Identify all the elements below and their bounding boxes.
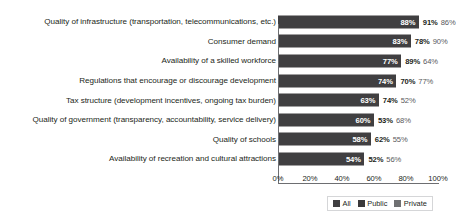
value-public: 78% [415,37,430,46]
chart-row: Regulations that encourage or discourage… [0,71,455,91]
axis-tick: 80% [398,174,413,183]
outside-values: 89%64% [405,56,438,65]
value-private: 52% [401,96,416,105]
legend-swatch-icon [333,200,340,207]
legend-label: Public [367,199,387,208]
outside-values: 74%52% [383,96,416,105]
chart-row: Availability of recreation and cultural … [0,149,455,169]
bar-area: 60%53%68% [278,110,455,130]
category-label: Availability of recreation and cultural … [0,154,278,163]
outside-values: 52%56% [368,154,401,163]
chart-row: Consumer demand83%78%90% [0,32,455,52]
value-public: 89% [405,56,420,65]
bar-value-all: 58% [352,135,370,144]
value-public: 62% [375,135,390,144]
value-private: 55% [393,135,408,144]
bar-value-all: 63% [360,96,378,105]
category-label: Quality of government (transparency, acc… [0,115,278,124]
outside-values: 70%77% [400,76,433,85]
bar-area: 63%74%52% [278,90,455,110]
value-private: 64% [423,56,438,65]
value-public: 53% [378,115,393,124]
chart-legend: AllPublicPrivate [327,196,433,211]
bar-value-all: 60% [356,115,374,124]
axis-tick: 60% [366,174,381,183]
bar-all: 60% [278,113,374,126]
category-label: Quality of infrastructure (transportatio… [0,17,278,26]
category-label: Consumer demand [0,37,278,46]
bar-value-all: 88% [400,17,418,26]
category-label: Regulations that encourage or discourage… [0,76,278,85]
chart-row: Quality of schools58%62%55% [0,130,455,150]
bar-all: 77% [278,54,401,67]
axis-tick: 100% [428,174,447,183]
chart-title-clipped [0,0,455,5]
bar-area: 88%91%86% [278,12,455,32]
legend-label: Private [404,199,427,208]
legend-label: All [343,199,351,208]
value-public: 52% [368,154,383,163]
bar-all: 74% [278,74,396,87]
bar-all: 88% [278,15,419,28]
chart-row: Tax structure (development incentives, o… [0,90,455,110]
bar-area: 83%78%90% [278,32,455,52]
chart-rows: Quality of infrastructure (transportatio… [0,12,455,169]
bar-all: 63% [278,94,379,107]
value-public: 70% [400,76,415,85]
legend-swatch-icon [358,200,365,207]
bar-area: 77%89%64% [278,51,455,71]
value-private: 86% [441,17,456,26]
chart-row: Quality of infrastructure (transportatio… [0,12,455,32]
outside-values: 91%86% [423,17,456,26]
bar-area: 74%70%77% [278,71,455,91]
legend-item[interactable]: All [333,199,351,208]
bar-value-all: 54% [346,154,364,163]
bar-all: 83% [278,35,411,48]
bar-value-all: 74% [378,76,396,85]
bar-value-all: 77% [383,56,401,65]
value-private: 90% [433,37,448,46]
legend-item[interactable]: Private [394,199,427,208]
category-label: Tax structure (development incentives, o… [0,96,278,105]
category-label: Quality of schools [0,135,278,144]
outside-values: 62%55% [375,135,408,144]
bar-area: 54%52%56% [278,149,455,169]
chart-row: Quality of government (transparency, acc… [0,110,455,130]
value-public: 91% [423,17,438,26]
value-private: 56% [386,154,401,163]
bar-all: 58% [278,133,371,146]
bar-area: 58%62%55% [278,130,455,150]
outside-values: 53%68% [378,115,411,124]
axis-tick: 20% [302,174,317,183]
value-private: 77% [418,76,433,85]
bar-chart: Quality of infrastructure (transportatio… [0,12,455,172]
value-public: 74% [383,96,398,105]
axis-tick: 40% [334,174,349,183]
outside-values: 78%90% [415,37,448,46]
legend-item[interactable]: Public [358,199,388,208]
legend-swatch-icon [394,200,401,207]
axis-tick: 0% [273,174,284,183]
category-label: Availability of a skilled workforce [0,56,278,65]
bar-value-all: 83% [392,37,410,46]
value-private: 68% [396,115,411,124]
chart-row: Availability of a skilled workforce77%89… [0,51,455,71]
x-axis-tick-labels: 0%20%40%60%80%100% [278,174,438,186]
bar-all: 54% [278,152,364,165]
